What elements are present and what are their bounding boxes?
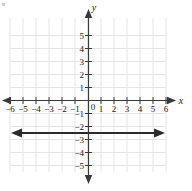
x-tick-label: 4 [138, 104, 143, 114]
y-axis-label: y [91, 2, 97, 13]
x-tick-label: −3 [44, 104, 54, 114]
x-tick-label: −2 [57, 104, 67, 114]
y-axis-down-arrow [85, 175, 92, 184]
line-left-arrow [11, 128, 22, 137]
line-right-arrow [154, 128, 165, 137]
x-tick-label: 6 [164, 104, 169, 114]
origin-label: 0 [91, 102, 96, 112]
y-tick-label: 3 [80, 57, 85, 67]
x-axis-label: x [178, 95, 184, 106]
x-axis-right-arrow [167, 97, 176, 104]
x-tick-label: 5 [151, 104, 156, 114]
y-tick-label: 4 [80, 44, 85, 54]
y-axis [85, 9, 92, 184]
corner-mark [2, 3, 5, 6]
y-tick-label: −5 [74, 161, 84, 171]
y-tick-label: 5 [80, 31, 85, 41]
x-tick-label: −6 [5, 104, 15, 114]
x-tick-label: 2 [112, 104, 117, 114]
coordinate-plane-figure: −6 −5 −4 −3 −2 −1 1 2 3 4 5 6 0 5 4 3 2 … [0, 0, 192, 191]
y-tick-label: 1 [80, 83, 85, 93]
y-tick-label: −3 [74, 135, 84, 145]
graph-svg: −6 −5 −4 −3 −2 −1 1 2 3 4 5 6 0 5 4 3 2 … [0, 0, 192, 191]
x-tick-label: −5 [18, 104, 28, 114]
x-tick-label: 3 [125, 104, 130, 114]
y-tick-label: −2 [74, 122, 84, 132]
y-tick-label: −4 [74, 148, 84, 158]
x-tick-labels: −6 −5 −4 −3 −2 −1 1 2 3 4 5 6 [5, 104, 169, 114]
y-tick-label: 2 [80, 70, 85, 80]
x-tick-label: −4 [31, 104, 41, 114]
x-tick-label: 1 [99, 104, 104, 114]
y-tick-label: −1 [74, 109, 84, 119]
